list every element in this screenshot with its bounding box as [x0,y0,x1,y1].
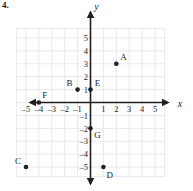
point-label-e: E [95,78,101,88]
y-tick-label: –3 [79,136,89,146]
point-marker-b[interactable] [75,87,80,92]
x-tick-label: 3 [127,104,131,114]
x-tick-label: 5 [153,104,157,114]
x-tick-label: –2 [59,104,69,114]
y-tick-label: –1 [79,111,89,121]
point-label-b: B [67,78,73,88]
x-axis-name: x [177,98,183,109]
x-tick-label: 2 [114,104,118,114]
y-tick-label: –5 [79,162,89,172]
y-axis-name: y [93,1,99,12]
point-label-f: F [42,90,47,100]
y-tick-label: –4 [79,149,89,159]
x-tick-label: 4 [140,104,145,114]
x-tick-label: 1 [101,104,105,114]
y-tick-label: 1 [84,85,88,95]
y-tick-label: –2 [79,124,89,134]
x-tick-label: –5 [21,104,31,114]
point-marker-g[interactable] [88,126,93,131]
y-tick-label: 2 [84,72,88,82]
point-label-g: G [94,130,101,140]
coordinate-plane-figure: 4. –5–4–3–2–11234554321–1–2–3–4–5 ABCDEF… [0,0,193,191]
y-tick-label: 3 [84,59,88,69]
y-tick-label: 5 [84,33,88,43]
point-marker-e[interactable] [88,87,93,92]
point-marker-a[interactable] [114,62,119,67]
point-label-c: C [15,156,21,166]
x-tick-label: –4 [34,104,44,114]
point-label-a: A [120,52,127,62]
axis-names-layer: xy [93,1,183,109]
point-marker-c[interactable] [24,165,29,170]
point-marker-f[interactable] [37,100,42,105]
point-label-d: D [107,170,114,180]
scatter-plot-svg: –5–4–3–2–11234554321–1–2–3–4–5 ABCDEFG x… [0,0,193,191]
x-tick-label: –3 [47,104,57,114]
point-marker-d[interactable] [101,165,106,170]
